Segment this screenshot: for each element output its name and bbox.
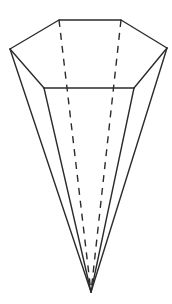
hidden-edge-back-right bbox=[91, 20, 121, 292]
lateral-edge-front-right bbox=[91, 88, 134, 292]
lateral-edges-hidden bbox=[59, 20, 121, 292]
edge-back-left bbox=[10, 20, 59, 49]
lateral-edge-left bbox=[10, 49, 91, 292]
base-hexagon bbox=[10, 20, 167, 88]
lateral-edge-right bbox=[91, 48, 167, 292]
lateral-edge-front-left bbox=[44, 88, 91, 292]
hidden-edge-back-left bbox=[59, 20, 91, 292]
lateral-edges-visible bbox=[10, 48, 167, 292]
inverted-hexagonal-pyramid-diagram bbox=[0, 0, 172, 304]
edge-front-right bbox=[134, 48, 167, 88]
edge-back-right bbox=[121, 20, 167, 48]
edge-front-left bbox=[10, 49, 44, 88]
